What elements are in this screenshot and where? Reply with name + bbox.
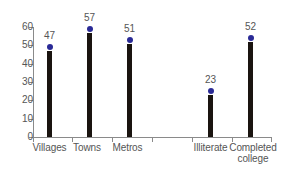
bar-metros bbox=[127, 44, 132, 137]
bar-illiterate bbox=[208, 95, 213, 137]
value-label-towns: 57 bbox=[78, 13, 102, 23]
marker-villages bbox=[47, 44, 53, 50]
marker-towns bbox=[87, 26, 93, 32]
bar-completed-college bbox=[248, 42, 253, 137]
y-axis-tick-50: 50 bbox=[0, 45, 33, 46]
y-axis-tick-0: 0 bbox=[0, 137, 33, 138]
marker-completed-college bbox=[248, 35, 254, 41]
value-label-villages: 47 bbox=[38, 31, 62, 41]
value-label-completed-college: 52 bbox=[239, 22, 263, 32]
category-label-towns: Towns bbox=[66, 142, 108, 153]
y-tick-label-0: 0 bbox=[7, 132, 33, 142]
category-label-completed-college-line2: college bbox=[225, 153, 281, 164]
y-axis-tick-60: 60 bbox=[0, 27, 33, 28]
chart-figure: 60 50 40 30 20 10 0 bbox=[0, 0, 281, 173]
y-axis-tick-40: 40 bbox=[0, 64, 33, 65]
y-tick-label-10: 10 bbox=[7, 114, 33, 124]
y-axis-tick-20: 20 bbox=[0, 100, 33, 101]
category-label-metros: Metros bbox=[105, 142, 150, 153]
value-label-illiterate: 23 bbox=[199, 75, 223, 85]
bar-villages bbox=[47, 51, 52, 137]
y-axis-tick-30: 30 bbox=[0, 82, 33, 83]
y-tick-label-40: 40 bbox=[7, 59, 33, 69]
y-tick-label-30: 30 bbox=[7, 77, 33, 87]
y-tick-label-20: 20 bbox=[7, 95, 33, 105]
y-tick-label-60: 60 bbox=[7, 22, 33, 32]
category-label-completed-college-line1: Completed bbox=[225, 142, 281, 153]
y-tick-label-50: 50 bbox=[7, 40, 33, 50]
value-label-metros: 51 bbox=[118, 24, 142, 34]
marker-illiterate bbox=[208, 88, 214, 94]
marker-metros bbox=[127, 37, 133, 43]
x-axis-tick-3 bbox=[152, 138, 153, 142]
plot-area: 60 50 40 30 20 10 0 bbox=[0, 0, 281, 173]
bar-towns bbox=[87, 33, 92, 137]
y-axis-line bbox=[33, 27, 34, 138]
y-axis-tick-10: 10 bbox=[0, 119, 33, 120]
